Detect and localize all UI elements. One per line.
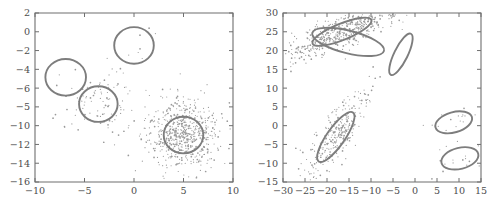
data-point	[346, 23, 347, 24]
data-point	[176, 97, 178, 99]
data-point	[349, 42, 350, 43]
data-point	[323, 36, 325, 38]
data-point	[99, 82, 100, 83]
data-point	[320, 31, 321, 32]
data-point	[307, 46, 308, 47]
data-point	[313, 48, 314, 49]
data-point	[378, 25, 379, 26]
data-point	[149, 95, 150, 96]
data-point	[325, 144, 326, 145]
data-point	[363, 24, 364, 25]
data-point	[97, 115, 99, 117]
data-point	[329, 171, 330, 172]
data-point	[181, 140, 183, 142]
data-point	[365, 22, 366, 23]
data-point	[391, 21, 392, 22]
data-point	[158, 162, 159, 163]
data-point	[190, 161, 191, 162]
data-point	[343, 18, 345, 20]
data-point	[112, 131, 114, 133]
data-point	[185, 122, 186, 123]
data-point	[194, 136, 195, 137]
data-point	[320, 155, 321, 156]
data-point	[207, 139, 208, 140]
data-point	[171, 156, 173, 158]
data-point	[171, 153, 172, 154]
axes-frame	[35, 13, 233, 182]
data-point	[463, 121, 464, 122]
data-point	[342, 109, 343, 110]
data-point	[341, 122, 342, 123]
data-point	[199, 159, 200, 160]
data-point	[176, 141, 177, 142]
data-point	[180, 143, 181, 144]
data-point	[208, 107, 209, 108]
data-point	[334, 109, 335, 110]
data-point	[181, 109, 182, 110]
data-point	[166, 131, 168, 133]
data-point	[291, 33, 292, 34]
data-point	[84, 104, 85, 105]
data-point	[64, 127, 65, 128]
data-point	[208, 117, 210, 119]
data-point	[304, 45, 306, 47]
data-point	[351, 33, 352, 34]
data-point	[187, 109, 188, 110]
data-point	[188, 127, 190, 129]
data-point	[354, 28, 355, 29]
data-point	[319, 47, 320, 48]
data-point	[367, 99, 368, 100]
data-point	[328, 115, 329, 116]
data-point	[199, 121, 200, 122]
data-point	[194, 129, 195, 130]
data-point	[170, 136, 171, 137]
data-point	[348, 128, 349, 129]
data-point	[185, 130, 187, 132]
data-point	[142, 58, 143, 59]
data-point	[120, 113, 121, 114]
data-point	[366, 106, 367, 107]
data-point	[370, 26, 372, 28]
data-point	[172, 139, 173, 140]
data-point	[186, 157, 187, 158]
data-point	[82, 95, 83, 96]
data-point	[117, 83, 119, 85]
data-point	[394, 16, 395, 17]
data-point	[331, 137, 332, 138]
data-point	[178, 136, 180, 138]
data-point	[215, 135, 216, 136]
data-point	[197, 132, 198, 133]
data-point	[119, 105, 120, 106]
data-point	[170, 156, 171, 157]
data-point	[201, 135, 202, 136]
data-point	[353, 39, 354, 40]
data-point	[322, 153, 324, 155]
data-point	[372, 85, 374, 87]
data-point	[189, 99, 190, 100]
y-tick-label: −4	[16, 64, 30, 75]
data-point	[175, 130, 177, 132]
data-point	[55, 114, 57, 116]
data-point	[329, 41, 330, 42]
data-point	[371, 17, 373, 19]
data-point	[195, 146, 197, 148]
data-point	[207, 148, 209, 150]
data-point	[302, 152, 304, 154]
data-point	[347, 138, 348, 139]
data-point	[301, 163, 302, 164]
data-point	[139, 135, 140, 136]
data-point	[327, 155, 328, 156]
data-point	[333, 131, 335, 133]
data-point	[166, 138, 168, 140]
data-point	[329, 35, 330, 36]
data-point	[204, 130, 205, 131]
data-point	[465, 158, 466, 159]
y-tick-label: −5	[264, 139, 278, 150]
data-point	[125, 86, 126, 87]
data-point	[341, 36, 342, 37]
cluster-outline-cluster-upper-left-sparse	[45, 59, 86, 96]
y-tick-label: −10	[258, 158, 278, 169]
data-point	[313, 167, 314, 168]
data-point	[191, 163, 192, 164]
data-point	[171, 140, 172, 141]
